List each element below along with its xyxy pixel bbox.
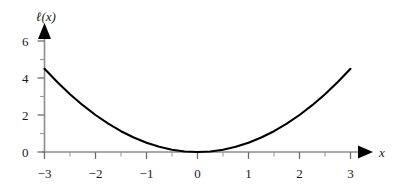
x-major-ticks <box>45 152 351 159</box>
x-tick-label: −3 <box>38 167 52 180</box>
x-tick-label: 0 <box>194 167 201 180</box>
x-tick-label: −2 <box>89 167 103 180</box>
y-tick-label: 0 <box>22 146 29 159</box>
x-axis-label: x <box>379 146 385 159</box>
function-curve <box>45 69 351 152</box>
x-tick-label: 1 <box>245 167 252 180</box>
x-tick-label: −1 <box>140 167 154 180</box>
y-tick-label: 6 <box>22 35 29 48</box>
arrow-up-icon <box>38 23 51 39</box>
arrow-right-icon <box>358 146 373 159</box>
y-tick-label: 4 <box>22 72 29 85</box>
x-tick-label: 2 <box>296 167 303 180</box>
x-tick-label: 3 <box>347 167 354 180</box>
axes-group <box>38 23 373 159</box>
y-axis-label: ℓ(x) <box>36 10 56 23</box>
chart-figure: ℓ(x) x −3−2−10123 0246 <box>0 0 397 195</box>
y-tick-label: 2 <box>22 109 29 122</box>
